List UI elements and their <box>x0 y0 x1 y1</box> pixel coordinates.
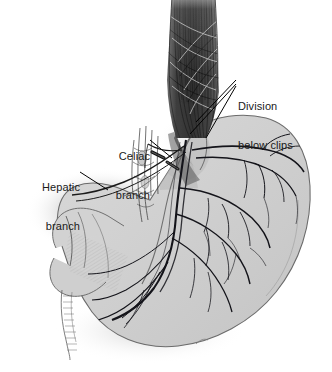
label-celiac-line1: Celiac <box>88 150 150 163</box>
label-celiac-line2: branch <box>88 189 150 202</box>
label-hepatic-line1: Hepatic <box>14 181 80 194</box>
label-hepatic-branch: Hepatic branch <box>14 155 80 259</box>
label-division-line2: below clips <box>238 139 293 152</box>
label-celiac-branch: Celiac branch <box>88 124 150 228</box>
label-division-below-clips: Division below clips <box>238 74 293 178</box>
label-hepatic-line2: branch <box>14 220 80 233</box>
label-division-line1: Division <box>238 100 293 113</box>
anatomy-figure: Division below clips Celiac branch Hepat… <box>0 0 332 372</box>
